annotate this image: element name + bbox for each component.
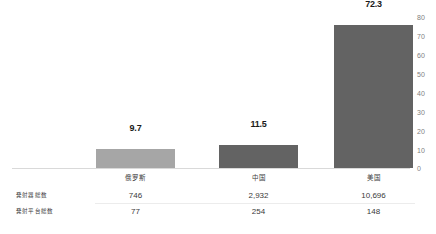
y-tick-10: 10 [417,147,425,155]
table-row: 発射器総数 746 2,932 10,696 [0,188,436,203]
y-tick-40: 40 [417,90,425,98]
bar-2[interactable] [219,145,298,168]
category-axis-labels: 俄罗斯 中国 美国 [12,172,410,185]
bar-slot-2: 11.5 [219,10,298,168]
category-label-3: 美国 [334,172,413,183]
table-row: 発射平台総数 77 254 148 [0,204,436,219]
table-cell-r1c1: 746 [96,188,175,203]
category-label-2: 中国 [219,172,298,183]
bar-value-label-1: 9.7 [96,123,175,133]
data-table: 発射器総数 746 2,932 10,696 発射平台総数 77 254 148 [0,188,436,230]
table-cell-r2c2: 254 [219,204,298,219]
table-cell-r2c3: 148 [334,204,413,219]
bar-value-label-3: 72.3 [334,0,413,9]
y-tick-20: 20 [417,128,425,136]
y-tick-30: 30 [417,109,425,117]
y-tick-70: 70 [417,33,425,41]
y-tick-80: 80 [417,14,425,22]
table-cell-r2c1: 77 [96,204,175,219]
table-row-label-1: 発射器総数 [16,188,47,203]
category-label-1: 俄罗斯 [96,172,175,183]
bar-1[interactable] [96,149,175,168]
plot-area: 9.7 11.5 72.3 [12,10,410,168]
bar-chart-figure: 9.7 11.5 72.3 80 70 60 50 40 30 20 10 0 … [0,0,436,234]
bar-3[interactable] [334,25,413,168]
y-tick-50: 50 [417,71,425,79]
bar-slot-1: 9.7 [96,10,175,168]
bar-value-label-2: 11.5 [219,119,298,129]
y-axis: 80 70 60 50 40 30 20 10 0 [412,0,436,178]
bar-slot-3: 72.3 [334,10,413,168]
x-axis-baseline [12,168,410,169]
y-tick-0: 0 [417,165,421,173]
table-cell-r1c3: 10,696 [334,188,413,203]
y-tick-60: 60 [417,52,425,60]
table-cell-r1c2: 2,932 [219,188,298,203]
table-row-label-2: 発射平台総数 [16,204,53,219]
